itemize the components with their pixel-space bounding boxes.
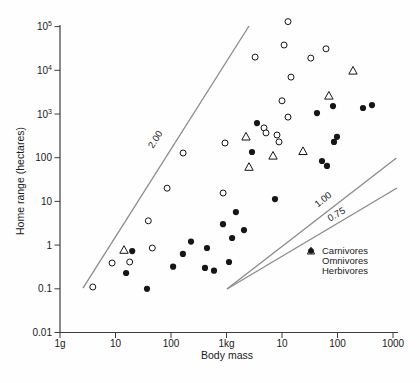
omnivore-point: [120, 246, 128, 254]
slope-line-2.00: [83, 26, 249, 288]
herbivore-point: [319, 158, 325, 164]
carnivore-point: [285, 19, 291, 25]
y-tick-label: 1: [46, 240, 52, 251]
herbivore-point: [229, 235, 235, 241]
legend-label-herbivores: Herbivores: [322, 266, 368, 276]
herbivore-point: [129, 248, 135, 254]
carnivore-point: [145, 218, 151, 224]
omnivore-point: [269, 152, 277, 160]
y-tick-label: 103: [37, 108, 52, 120]
herbivore-point: [241, 227, 247, 233]
x-tick-label: 100: [163, 338, 180, 349]
herbivore-point: [204, 245, 210, 251]
y-tick-label: 0.1: [38, 283, 52, 294]
herbivore-point: [170, 264, 176, 270]
herbivore-point: [254, 120, 260, 126]
herbivore-point: [180, 251, 186, 257]
omnivore-point: [242, 132, 250, 140]
x-tick-label: 1kg: [218, 338, 234, 349]
carnivore-point: [281, 42, 287, 48]
herbivore-point: [144, 286, 150, 292]
herbivore-point: [188, 239, 194, 245]
herbivore-point: [324, 163, 330, 169]
y-tick-label: 104: [37, 64, 52, 76]
chart-canvas: 2.001.000.751051041031001010.10.011g1010…: [0, 0, 420, 383]
home-range-body-mass-figure: 2.001.000.751051041031001010.10.011g1010…: [0, 0, 420, 383]
carnivore-point: [149, 245, 155, 251]
carnivore-point: [274, 132, 280, 138]
x-tick-label: 100: [329, 338, 346, 349]
carnivore-point: [222, 140, 228, 146]
omnivore-point: [349, 67, 357, 75]
carnivore-point: [263, 130, 269, 136]
omnivore-point: [299, 147, 307, 155]
carnivore-point: [276, 139, 282, 145]
carnivore-point: [90, 284, 96, 290]
y-tick-label: 10: [41, 196, 53, 207]
herbivore-point: [249, 149, 255, 155]
carnivore-point: [252, 54, 258, 60]
open-triangle-icon: [306, 256, 322, 266]
herbivore-point: [123, 270, 129, 276]
carnivore-point: [127, 259, 133, 265]
x-tick-label: 10: [110, 338, 122, 349]
carnivore-point: [323, 46, 329, 52]
legend: Carnivores Omnivores Herbivores: [306, 246, 368, 276]
carnivore-point: [279, 98, 285, 104]
y-axis-title: Home range (hectares): [14, 127, 26, 235]
slope-label-0.75: 0.75: [325, 205, 347, 224]
carnivore-point: [164, 185, 170, 191]
carnivore-point: [308, 55, 314, 61]
carnivore-point: [220, 190, 226, 196]
carnivore-point: [109, 260, 115, 266]
y-tick-label: 105: [37, 20, 52, 32]
filled-circle-icon: [306, 266, 322, 276]
herbivore-point: [330, 103, 336, 109]
herbivore-point: [369, 102, 375, 108]
herbivore-point: [233, 209, 239, 215]
x-tick-label: 1g: [54, 338, 65, 349]
herbivore-point: [314, 110, 320, 116]
legend-row-herbivores: Herbivores: [306, 266, 368, 276]
omnivore-point: [245, 163, 253, 171]
y-tick-label: 100: [35, 152, 52, 163]
herbivore-point: [226, 259, 232, 265]
herbivore-point: [360, 105, 366, 111]
y-tick-label: 0.01: [33, 327, 53, 338]
herbivore-point: [334, 134, 340, 140]
carnivore-point: [285, 114, 291, 120]
herbivore-point: [202, 265, 208, 271]
x-tick-label: 10: [276, 338, 288, 349]
herbivore-point: [220, 221, 226, 227]
axes: 1051041031001010.10.011g101001kg10100100…: [33, 20, 405, 348]
carnivore-point: [288, 74, 294, 80]
slope-label-2.00: 2.00: [145, 128, 164, 150]
herbivore-point: [272, 196, 278, 202]
x-tick-label: 1000: [382, 338, 405, 349]
x-axis-title: Body mass: [201, 349, 253, 361]
herbivore-point: [211, 268, 217, 274]
omnivore-point: [325, 92, 333, 100]
slope-label-1.00: 1.00: [312, 189, 333, 209]
carnivore-point: [180, 150, 186, 156]
